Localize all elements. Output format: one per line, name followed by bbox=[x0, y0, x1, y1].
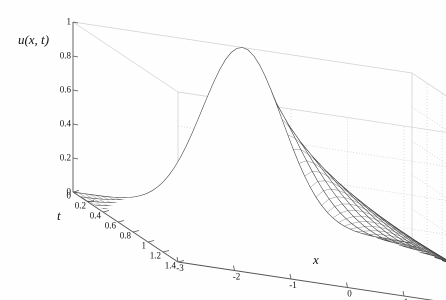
t-axis-title: t bbox=[57, 208, 61, 224]
surface-mesh-canvas bbox=[0, 0, 446, 300]
x-axis-title: x bbox=[313, 252, 319, 268]
surface-plot-figure: u(x, t) t x bbox=[0, 0, 446, 300]
z-axis-title: u(x, t) bbox=[18, 32, 49, 48]
